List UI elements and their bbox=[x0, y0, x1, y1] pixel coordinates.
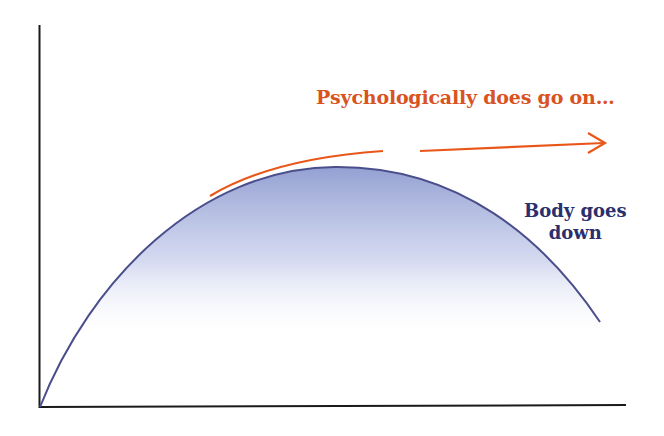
body-label-line1: Body goes bbox=[524, 200, 627, 222]
psychological-label: Psychologically does go on… bbox=[316, 86, 614, 108]
body-curve-fill bbox=[40, 167, 600, 407]
psych-arrow-line bbox=[420, 143, 604, 151]
body-label: Body goes down bbox=[524, 200, 627, 244]
body-label-line2: down bbox=[524, 222, 627, 244]
